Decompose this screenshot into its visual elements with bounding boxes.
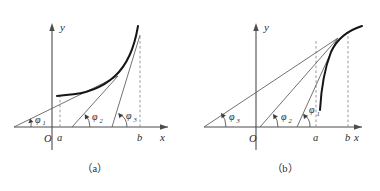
curve-a <box>57 26 138 96</box>
angle-sub-phi2-a: 2 <box>99 117 103 124</box>
angle-label-phi2-b: φ <box>281 111 287 122</box>
diagram-panel-b: φ 3 φ 2 φ 1 y x O a b （b） <box>190 0 380 191</box>
x-axis-arrowhead-a <box>160 124 168 130</box>
curve-b <box>320 26 362 110</box>
angle-arrowhead-phi2-a <box>85 114 90 119</box>
diagram-panel-a: φ 1 φ 2 φ 3 y x O a b （a） <box>0 0 190 191</box>
caption-b: （b） <box>190 160 380 175</box>
angle-label-phi1-b: φ <box>309 104 315 115</box>
angle-label-phi1-a: φ <box>35 114 41 125</box>
point-label-a-b: a <box>313 132 318 143</box>
y-axis-arrowhead-b <box>253 23 258 31</box>
angle-sub-phi1-b: 1 <box>316 110 319 117</box>
x-axis-arrowhead-b <box>354 124 362 130</box>
caption-a: （a） <box>0 160 190 175</box>
angle-sub-phi1-a: 1 <box>42 119 45 126</box>
angle-sub-phi3-b: 3 <box>235 117 240 124</box>
origin-label-a: O <box>44 133 52 144</box>
angle-arrowhead-phi2-b <box>273 114 278 119</box>
angle-label-phi3-b: φ <box>229 111 235 122</box>
origin-label-b: O <box>249 133 257 144</box>
x-axis-label-a: x <box>159 131 165 143</box>
point-label-b-a: b <box>137 132 142 143</box>
x-axis-label-b: x <box>353 131 359 143</box>
figure-root: φ 1 φ 2 φ 3 y x O a b （a） <box>0 0 380 191</box>
y-axis-label-a: y <box>59 21 65 33</box>
y-axis-label-b: y <box>263 21 269 33</box>
point-label-b-b: b <box>345 132 350 143</box>
point-label-a-a: a <box>57 132 62 143</box>
angle-sub-phi2-b: 2 <box>288 117 292 124</box>
angle-label-phi2-a: φ <box>92 111 98 122</box>
angle-sub-phi3-a: 3 <box>132 116 137 123</box>
y-axis-arrowhead-a <box>49 23 54 31</box>
angle-label-phi3-a: φ <box>126 110 132 121</box>
